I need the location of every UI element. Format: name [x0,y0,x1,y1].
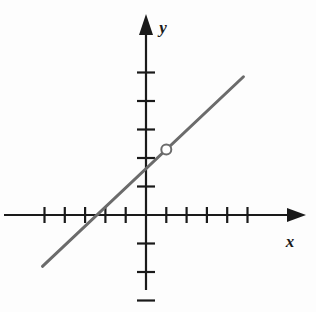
plotted-line-group [42,77,243,267]
y-axis-label: y [157,18,167,37]
graph-figure: y x [0,0,316,312]
x-axis-label: x [285,232,295,251]
linear-function-line [42,77,243,267]
open-circle-marker [161,144,171,154]
open-point-group [161,144,171,154]
y-axis-arrowhead [139,14,153,35]
coordinate-plane-svg: y x [0,0,316,312]
x-axis-arrowhead [287,208,306,222]
x-axis-group [4,207,306,223]
y-axis-group [137,14,155,301]
